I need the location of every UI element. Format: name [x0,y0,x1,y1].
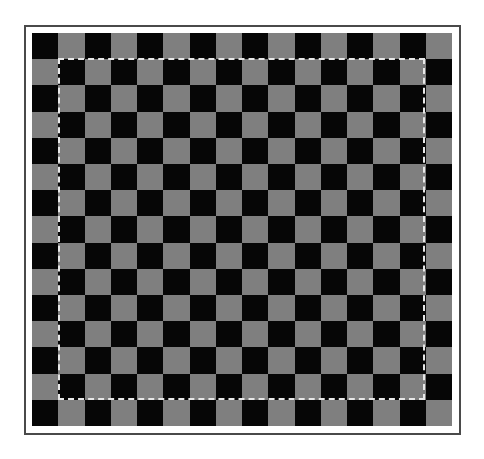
board-square [137,243,163,269]
board-square [400,347,426,373]
board-square [85,138,111,164]
board-square [295,112,321,138]
board-square [242,269,268,295]
board-square [347,138,373,164]
board-square [190,321,216,347]
board-square [321,347,347,373]
board-square [295,295,321,321]
board-square [163,216,189,242]
board-square [85,295,111,321]
board-square [85,33,111,59]
board-square [85,269,111,295]
board-square [295,347,321,373]
board-square [58,347,84,373]
board-square [400,295,426,321]
board-square [163,400,189,426]
board-square [111,347,137,373]
board-square [163,374,189,400]
board-square [295,33,321,59]
board-square [268,216,294,242]
board-square [216,321,242,347]
board-square [190,216,216,242]
board-square [163,138,189,164]
board-square [242,321,268,347]
board-square [163,321,189,347]
board-square [32,243,58,269]
board-square [85,59,111,85]
board-square [58,295,84,321]
board-square [242,164,268,190]
board-square [400,164,426,190]
board-square [242,112,268,138]
board-square [216,112,242,138]
board-square [242,347,268,373]
board-square [347,59,373,85]
board-square [426,59,452,85]
board-square [426,374,452,400]
board-square [268,59,294,85]
board-square [190,347,216,373]
board-square [163,85,189,111]
board-square [295,138,321,164]
board-square [295,85,321,111]
board-square [268,33,294,59]
board-square [111,138,137,164]
board-square [111,216,137,242]
board-square [137,216,163,242]
board-square [58,400,84,426]
board-square [111,295,137,321]
board-square [190,112,216,138]
board-square [137,400,163,426]
board-square [426,347,452,373]
board-square [347,321,373,347]
board-square [321,164,347,190]
board-square [321,33,347,59]
board-square [295,59,321,85]
board-square [321,85,347,111]
board-square [321,400,347,426]
board-square [58,85,84,111]
board-square [190,295,216,321]
board-square [373,33,399,59]
board-square [321,243,347,269]
board-square [85,112,111,138]
board-square [137,112,163,138]
board-square [111,59,137,85]
board-square [426,216,452,242]
board-square [163,190,189,216]
board-square [321,138,347,164]
board-square [242,243,268,269]
board-square [32,374,58,400]
board-square [32,269,58,295]
board-square [32,321,58,347]
board-square [400,85,426,111]
board-square [268,138,294,164]
board-square [295,400,321,426]
board-square [216,59,242,85]
board-square [321,216,347,242]
board-square [190,374,216,400]
board-square [321,269,347,295]
board-square [347,400,373,426]
board-square [32,190,58,216]
board-square [295,164,321,190]
board-square [242,374,268,400]
board-square [347,347,373,373]
board-square [216,85,242,111]
board-square [32,112,58,138]
board-square [347,164,373,190]
board-square [32,33,58,59]
board-square [321,295,347,321]
board-square [242,138,268,164]
board-square [85,347,111,373]
board-square [32,138,58,164]
board-square [321,190,347,216]
checkerboard [32,33,452,426]
board-square [137,59,163,85]
board-square [373,295,399,321]
board-square [190,59,216,85]
board-square [216,269,242,295]
board-square [137,374,163,400]
board-square [400,190,426,216]
board-square [111,112,137,138]
